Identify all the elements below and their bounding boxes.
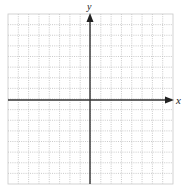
x-axis-label: x [175, 94, 181, 106]
y-axis-label: y [86, 1, 92, 12]
coordinate-grid: x y [0, 0, 183, 189]
